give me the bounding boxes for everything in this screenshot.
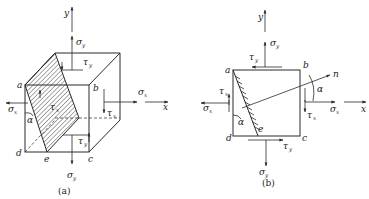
x-axis-label-a: x xyxy=(163,102,168,112)
vertex-b-b: b xyxy=(303,60,309,70)
vertex-c-a: c xyxy=(88,154,93,164)
vertex-c-b: c xyxy=(302,133,307,143)
tau-y-bottom-label-a: τ y xyxy=(78,136,88,148)
vertex-a-b: a xyxy=(225,65,230,75)
diagram-svg: y σ y τ y τ x xyxy=(0,0,369,199)
tau-y-top-label-a: τ y xyxy=(83,57,93,69)
vertex-b-a: b xyxy=(93,83,99,93)
sigma-y-top-label-b: σ y xyxy=(270,38,280,50)
svg-text:y: y xyxy=(72,175,77,182)
cube-edge-b-back xyxy=(89,53,120,85)
stress-element-diagram: y σ y τ y τ x xyxy=(0,0,369,199)
vertex-d-a: d xyxy=(16,148,22,158)
alpha-label-a: α xyxy=(27,115,33,125)
sigma-y-top-label-a: σ y xyxy=(76,37,86,49)
y-axis-label-a: y xyxy=(63,8,70,18)
sigma-y-bottom-label-a: σ y xyxy=(67,170,77,182)
svg-text:x: x xyxy=(144,92,148,98)
sigma-x-left-label-a: σ x xyxy=(8,104,18,115)
vertex-e-a: e xyxy=(44,154,49,164)
alpha-arc-right-b xyxy=(309,75,314,101)
svg-text:y: y xyxy=(275,43,280,50)
svg-text:x: x xyxy=(14,109,18,115)
alpha-label-right-b: α xyxy=(317,84,323,94)
svg-text:x: x xyxy=(209,108,213,114)
svg-text:y: y xyxy=(81,42,86,49)
svg-text:x: x xyxy=(313,115,317,121)
svg-text:x: x xyxy=(336,109,340,115)
y-axis-label-b: y xyxy=(257,12,264,22)
sigma-x-left-label-b: σ x xyxy=(203,103,213,114)
sigma-x-right-label-b: σ x xyxy=(330,104,340,115)
normal-n-label-b: n xyxy=(333,69,339,79)
tau-x-right-label-a: τ x xyxy=(107,108,117,119)
caption-a: (a) xyxy=(58,186,70,196)
vertex-e-b: e xyxy=(258,124,263,134)
svg-text:y: y xyxy=(83,141,88,148)
tau-x-right-label-b: τ x xyxy=(307,110,317,121)
svg-text:y: y xyxy=(288,146,293,153)
tau-x-left-label-b: τ x xyxy=(219,86,229,97)
svg-text:y: y xyxy=(254,57,259,64)
cube-edge-c-back xyxy=(89,120,120,152)
caption-b: (b) xyxy=(262,178,275,188)
svg-text:x: x xyxy=(225,91,229,97)
alpha-label-left-b: α xyxy=(238,117,244,127)
vertex-d-b: d xyxy=(226,133,232,143)
svg-text:y: y xyxy=(88,62,93,69)
vertex-a-a: a xyxy=(17,80,22,90)
figure-a: y σ y τ y τ x xyxy=(6,7,168,196)
sigma-x-right-label-a: σ x xyxy=(138,87,148,98)
tau-y-bottom-label-b: τ y xyxy=(283,141,293,153)
x-axis-label-b: x xyxy=(361,104,366,114)
figure-b: y σ y τ y xyxy=(201,10,366,188)
tau-y-top-label-b: τ y xyxy=(249,52,259,64)
